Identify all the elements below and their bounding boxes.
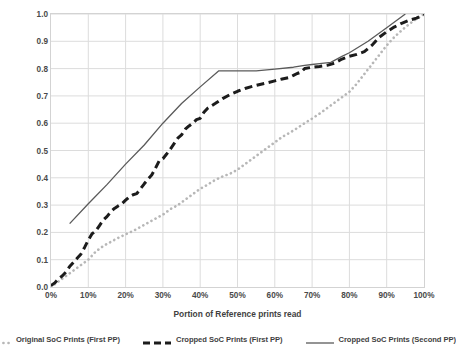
x-tick-label: 60% [255,291,295,300]
y-tick-label: 0.5 [22,146,48,155]
x-tick-label: 70% [292,291,332,300]
y-axis-tick-labels: 0.00.10.20.30.40.50.60.70.80.91.0 [22,13,48,288]
x-tick-label: 40% [180,291,220,300]
legend-item[interactable]: Cropped SoC Prints (First PP) [142,334,283,344]
x-tick-label: 30% [143,291,183,300]
y-tick-label: 0.1 [22,255,48,264]
plot-area [50,13,425,288]
y-tick-label: 1.0 [22,10,48,19]
legend-item[interactable]: Cropped SoC Prints (Second PP) [305,334,456,344]
x-tick-label: 20% [106,291,146,300]
legend-swatch-dashed-icon [142,334,172,344]
x-tick-label: 50% [218,291,258,300]
x-tick-label: 80% [329,291,369,300]
chart-legend: Original SoC Prints (First PP)Cropped So… [0,331,438,347]
x-tick-label: 0% [31,291,71,300]
y-tick-label: 0.6 [22,119,48,128]
y-tick-label: 0.4 [22,173,48,182]
y-tick-label: 0.7 [22,91,48,100]
y-tick-label: 0.9 [22,37,48,46]
y-tick-label: 0.2 [22,228,48,237]
legend-label: Original SoC Prints (First PP) [16,335,120,344]
x-axis-title: Portion of Reference prints read [50,309,425,319]
legend-label: Cropped SoC Prints (Second PP) [339,335,456,344]
legend-swatch-solid-icon [305,334,335,344]
x-tick-label: 100% [404,291,444,300]
legend-swatch-dotted-icon [0,334,12,344]
gridlines [51,14,424,287]
y-tick-label: 0.8 [22,64,48,73]
legend-label: Cropped SoC Prints (First PP) [176,335,283,344]
y-tick-label: 0.3 [22,201,48,210]
x-tick-label: 10% [68,291,108,300]
plot-svg [51,14,424,287]
legend-item[interactable]: Original SoC Prints (First PP) [0,334,120,344]
x-axis-tick-labels: 0%10%20%30%40%50%60%70%80%90%100% [50,291,425,305]
x-tick-label: 90% [367,291,407,300]
